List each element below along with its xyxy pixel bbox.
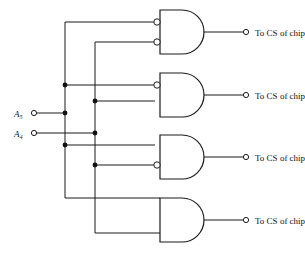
invert-bubble-gate3-bottom [154, 162, 160, 168]
junction-dot-a4-input [93, 131, 98, 136]
output-terminal-gate3 [243, 154, 248, 159]
invert-bubble-gate1-top [154, 19, 160, 25]
output-terminal-gate4 [243, 217, 248, 222]
output-label-chip1: To CS of chip 1 [255, 28, 305, 38]
gate-4-wiring [65, 198, 160, 233]
gate-1-wiring [65, 22, 155, 42]
gate-3-wiring [65, 145, 155, 165]
input-terminal-a5[interactable] [31, 110, 65, 115]
junction-dot-a5-gate3 [63, 143, 68, 148]
junction-dot-a4-gate2 [93, 99, 98, 104]
invert-bubble-gate1-bottom [154, 39, 160, 45]
gate-2-wiring [65, 85, 155, 101]
input-label-a5: A5 [13, 109, 23, 120]
output-label-chip3: To CS of chip 3 [255, 153, 305, 163]
gate-4[interactable] [160, 198, 249, 242]
junction-dot-a5-gate2 [63, 83, 68, 88]
input-terminal-a4[interactable] [31, 130, 95, 135]
gate-2[interactable] [154, 73, 249, 117]
gate-1[interactable] [154, 10, 249, 54]
output-label-chip2: To CS of chip 2 [255, 91, 305, 101]
junction-dot-a4-gate3 [93, 163, 98, 168]
output-terminal-gate2 [243, 92, 248, 97]
input-label-a4: A4 [13, 129, 23, 140]
invert-bubble-gate2-top [154, 82, 160, 88]
output-terminal-gate1 [243, 29, 248, 34]
circuit-diagram: To CS of chip 1 To CS of chip 2 To CS of… [0, 0, 305, 255]
output-label-chip4: To CS of chip 4 [255, 216, 305, 226]
gate-3[interactable] [154, 135, 249, 179]
junction-dot-a5-input [63, 111, 68, 116]
